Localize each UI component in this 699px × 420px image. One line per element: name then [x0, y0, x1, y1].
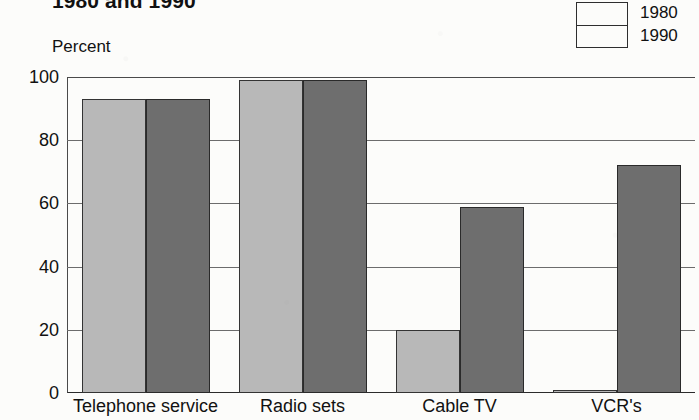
- bar-1980-telephone-service: [82, 99, 146, 393]
- x-axis-category-labels: Telephone serviceRadio setsCable TVVCR's: [67, 395, 695, 420]
- y-axis-unit-label: Percent: [52, 37, 111, 57]
- x-axis-category-label: Radio sets: [260, 395, 345, 417]
- y-axis-tick-label: 80: [39, 131, 59, 149]
- x-axis-category-label: Cable TV: [422, 395, 497, 417]
- y-axis-tick-labels: 020406080100: [0, 77, 59, 393]
- y-axis-tick-label: 100: [29, 68, 59, 86]
- y-axis-tick-label: 40: [39, 258, 59, 276]
- chart-figure: 1980 and 1990 Percent 1980 1990 02040608…: [0, 0, 699, 420]
- bar-1980-cable-tv: [396, 330, 460, 393]
- legend-swatch-1990: [576, 25, 628, 48]
- chart-legend: 1980 1990: [576, 2, 696, 48]
- y-axis-tick-label: 20: [39, 321, 59, 339]
- bar-1990-vcr-s: [617, 165, 681, 393]
- x-axis-category-label: Telephone service: [73, 395, 218, 417]
- legend-swatch-1980: [576, 2, 628, 25]
- bar-1990-telephone-service: [146, 99, 210, 393]
- legend-entry-1980: 1980: [576, 2, 696, 25]
- legend-entry-1990: 1990: [576, 25, 696, 48]
- bar-1980-radio-sets: [239, 80, 303, 393]
- bar-1990-radio-sets: [303, 80, 367, 393]
- bar-1990-cable-tv: [460, 207, 524, 393]
- x-axis-category-label: VCR's: [591, 395, 641, 417]
- bar-1980-vcr-s: [553, 390, 617, 393]
- chart-title: 1980 and 1990: [52, 0, 196, 13]
- y-axis-tick-label: 0: [49, 384, 59, 402]
- legend-label-1990: 1990: [640, 26, 678, 46]
- plot-area: [67, 77, 695, 393]
- y-axis-tick-label: 60: [39, 194, 59, 212]
- legend-label-1980: 1980: [640, 3, 678, 23]
